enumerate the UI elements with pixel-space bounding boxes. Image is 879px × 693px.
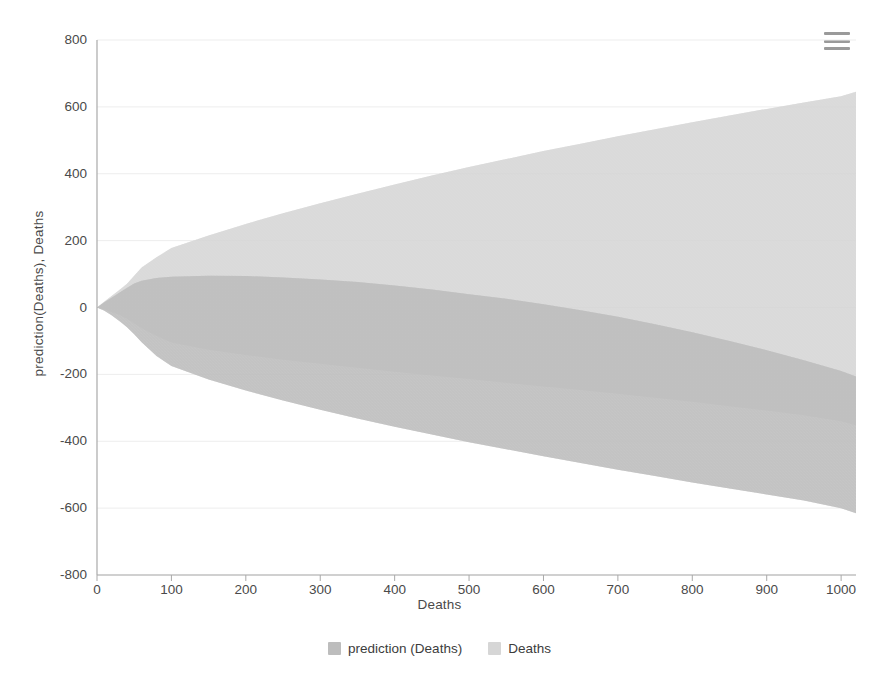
plot-area [0, 0, 879, 693]
legend-label: Deaths [508, 641, 551, 656]
legend-item-prediction-deaths[interactable]: prediction (Deaths) [328, 641, 462, 656]
chart-legend: prediction (Deaths)Deaths [0, 641, 879, 656]
legend-swatch-icon [328, 642, 341, 655]
legend-label: prediction (Deaths) [348, 641, 462, 656]
data-bands [97, 92, 856, 513]
legend-swatch-icon [488, 642, 501, 655]
axis-tickmarks [97, 575, 841, 581]
chart-container: prediction(Deaths), Deaths Deaths 800600… [0, 0, 879, 693]
legend-item-deaths[interactable]: Deaths [488, 641, 551, 656]
